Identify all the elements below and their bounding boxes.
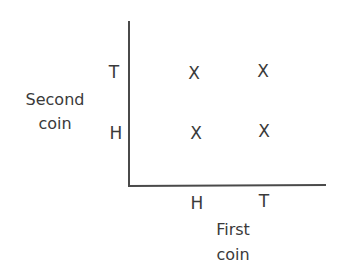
x-tick-heads: H <box>188 193 206 213</box>
x-tick-tails: T <box>256 191 272 211</box>
vertical-axis-line <box>128 21 130 187</box>
x-axis-title-line2: coin <box>205 244 261 266</box>
horizontal-axis-line <box>129 184 326 187</box>
y-tick-heads: H <box>108 123 124 143</box>
outcome-HH-mark: X <box>186 123 206 143</box>
outcome-TH-mark: X <box>254 121 274 141</box>
y-axis-title-line2: coin <box>14 113 96 135</box>
outcome-HT-mark: X <box>184 63 204 83</box>
outcome-TT-mark: X <box>253 61 273 81</box>
y-axis-title-line1: Second <box>14 89 96 111</box>
x-axis-title-line1: First <box>205 219 261 241</box>
y-tick-tails: T <box>106 62 122 82</box>
